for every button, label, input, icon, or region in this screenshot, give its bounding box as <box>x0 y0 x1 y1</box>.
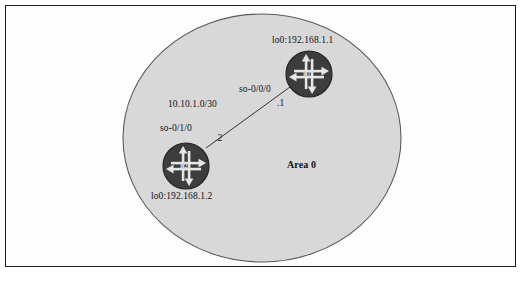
router-label-r1: R1 <box>303 71 311 77</box>
address-suffix-r2: .2 <box>215 134 222 144</box>
network-prefix-label: 10.10.1.0/30 <box>168 100 217 110</box>
area-circle <box>123 14 401 262</box>
interface-label-r1: so-0/0/0 <box>239 85 271 95</box>
interface-label-r2: so-0/1/0 <box>160 124 192 134</box>
diagram-canvas <box>0 0 524 287</box>
network-diagram-figure: R1 R2 lo0:192.168.1.1 lo0:192.168.1.2 10… <box>0 0 524 287</box>
area-label: Area 0 <box>287 160 316 170</box>
loopback-label-r2: lo0:192.168.1.2 <box>151 192 212 202</box>
address-suffix-r1: .1 <box>277 99 284 109</box>
router-label-r2: R2 <box>180 163 188 169</box>
loopback-label-r1: lo0:192.168.1.1 <box>272 36 333 46</box>
